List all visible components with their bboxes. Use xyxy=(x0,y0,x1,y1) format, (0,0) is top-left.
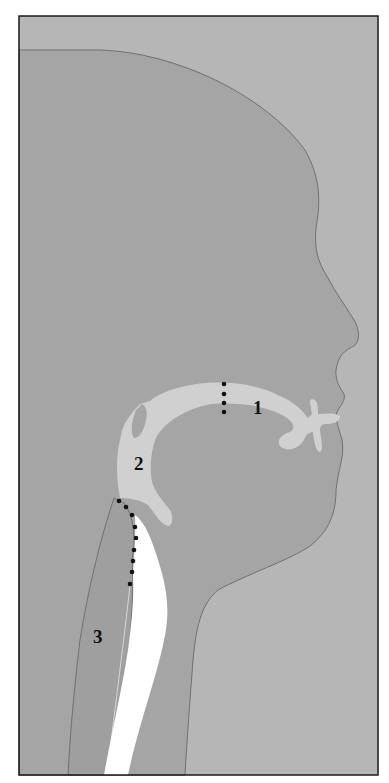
label-oral-cavity: 1 xyxy=(253,397,263,418)
label-pharynx: 2 xyxy=(134,453,144,474)
vocal-tract-diagram: 1 2 3 xyxy=(0,0,389,783)
label-larynx: 3 xyxy=(93,626,103,647)
